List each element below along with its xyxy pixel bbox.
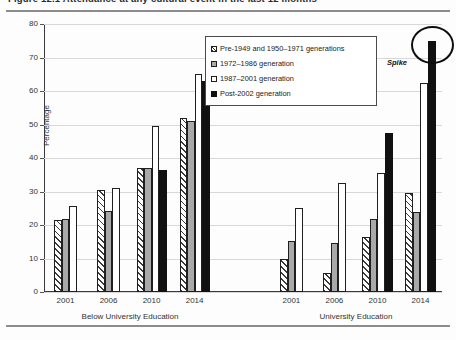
- legend-swatch-icon-series2: [211, 76, 217, 82]
- bar-university-2010-series0: [362, 237, 370, 292]
- bar-university-2006-series2: [338, 183, 346, 292]
- y-tick-label-40: 40: [14, 154, 38, 162]
- figure-root: Figure 12.1 Attendance at any cultural e…: [0, 0, 456, 340]
- bar-below-university-2010-series2: [152, 126, 160, 292]
- x-tick-label-university-2006: 2006: [326, 296, 344, 305]
- legend: Pre-1949 and 1950–1971 generations1972–1…: [205, 36, 377, 106]
- y-tick-label-30: 30: [14, 188, 38, 196]
- bar-university-2001-series2: [295, 208, 303, 292]
- bar-below-university-2001-series2: [69, 206, 77, 292]
- rule-bottom: [6, 325, 450, 327]
- spike-annotation-label: Spike: [387, 58, 407, 67]
- figure-title: Figure 12.1 Attendance at any cultural e…: [8, 0, 317, 4]
- bar-university-2006-series0: [323, 273, 331, 292]
- y-tick-mark-0: [40, 292, 44, 293]
- bar-university-2010-series2: [377, 173, 385, 292]
- bar-below-university-2014-series0: [180, 118, 188, 292]
- x-tick-label-below-university-2006: 2006: [100, 296, 118, 305]
- bar-below-university-2001-series1: [62, 219, 70, 292]
- rule-top: [6, 10, 450, 12]
- x-tick-label-below-university-2010: 2010: [143, 296, 161, 305]
- bar-university-2010-series1: [370, 219, 378, 292]
- bar-university-2014-series3: [428, 41, 436, 292]
- bar-below-university-2001-series0: [54, 220, 62, 292]
- bar-university-2014-series2: [420, 83, 428, 292]
- bar-below-university-2010-series3: [159, 170, 167, 292]
- bar-university-2014-series0: [405, 193, 413, 292]
- group-label-below-university-education: Below University Education: [82, 312, 179, 321]
- x-tick-label-university-2014: 2014: [412, 296, 430, 305]
- x-tick-label-below-university-2001: 2001: [57, 296, 75, 305]
- y-tick-label-0: 0: [14, 288, 38, 296]
- x-tick-label-university-2010: 2010: [369, 296, 387, 305]
- bar-below-university-2006-series0: [97, 190, 105, 292]
- x-tick-label-below-university-2014: 2014: [186, 296, 204, 305]
- legend-item-series3[interactable]: Post-2002 generation: [211, 86, 371, 101]
- legend-swatch-icon-series3: [211, 91, 217, 97]
- legend-swatch-icon-series1: [211, 61, 217, 67]
- group-label-university-education: University Education: [319, 312, 392, 321]
- gridline-0: [44, 292, 442, 293]
- y-tick-label-80: 80: [14, 20, 38, 28]
- bar-university-2014-series1: [413, 212, 421, 292]
- bar-below-university-2014-series3: [202, 81, 210, 292]
- x-tick-label-university-2001: 2001: [282, 296, 300, 305]
- legend-item-series1[interactable]: 1972–1986 generation: [211, 56, 371, 71]
- bar-university-2001-series1: [288, 241, 296, 292]
- bar-university-2001-series0: [280, 259, 288, 293]
- legend-label-series2: 1987–2001 generation: [220, 74, 294, 83]
- bar-below-university-2014-series2: [195, 74, 203, 292]
- bar-below-university-2006-series1: [105, 211, 113, 292]
- y-tick-label-70: 70: [14, 54, 38, 62]
- legend-item-series2[interactable]: 1987–2001 generation: [211, 71, 371, 86]
- bar-below-university-2006-series2: [112, 188, 120, 292]
- y-tick-label-20: 20: [14, 221, 38, 229]
- y-tick-label-10: 10: [14, 255, 38, 263]
- bar-university-2006-series1: [331, 243, 339, 292]
- legend-label-series1: 1972–1986 generation: [220, 59, 294, 68]
- bar-university-2010-series3: [385, 133, 393, 292]
- bar-below-university-2010-series0: [137, 168, 145, 292]
- legend-item-series0[interactable]: Pre-1949 and 1950–1971 generations: [211, 41, 371, 56]
- legend-label-series3: Post-2002 generation: [220, 89, 291, 98]
- bar-below-university-2010-series1: [144, 168, 152, 292]
- legend-label-series0: Pre-1949 and 1950–1971 generations: [220, 44, 345, 53]
- y-tick-label-60: 60: [14, 87, 38, 95]
- spike-highlight-ellipse: [411, 26, 454, 64]
- y-tick-label-50: 50: [14, 121, 38, 129]
- legend-swatch-icon-series0: [211, 46, 217, 52]
- bar-below-university-2014-series1: [187, 121, 195, 292]
